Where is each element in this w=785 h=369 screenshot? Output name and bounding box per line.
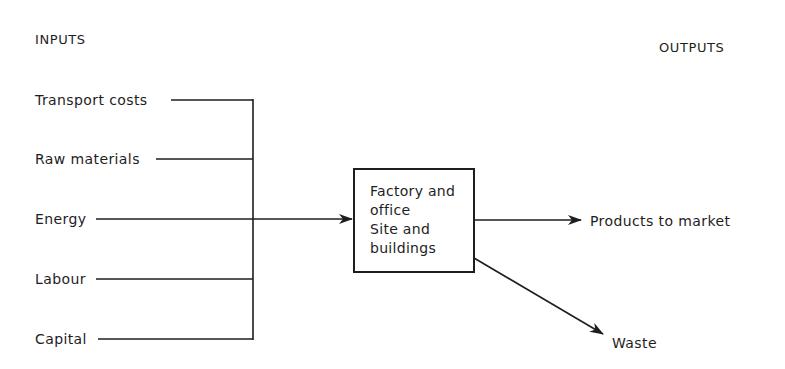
process-line-3: Site and: [370, 220, 455, 239]
process-text: Factory and office Site and buildings: [370, 182, 455, 258]
output-waste: Waste: [612, 335, 657, 351]
process-line-1: Factory and: [370, 182, 455, 201]
process-line-2: office: [370, 201, 455, 220]
factory-process-box: Factory and office Site and buildings: [353, 168, 475, 273]
waste-arrow: [474, 258, 603, 334]
output-products-to-market: Products to market: [590, 213, 730, 229]
process-line-4: buildings: [370, 239, 455, 258]
